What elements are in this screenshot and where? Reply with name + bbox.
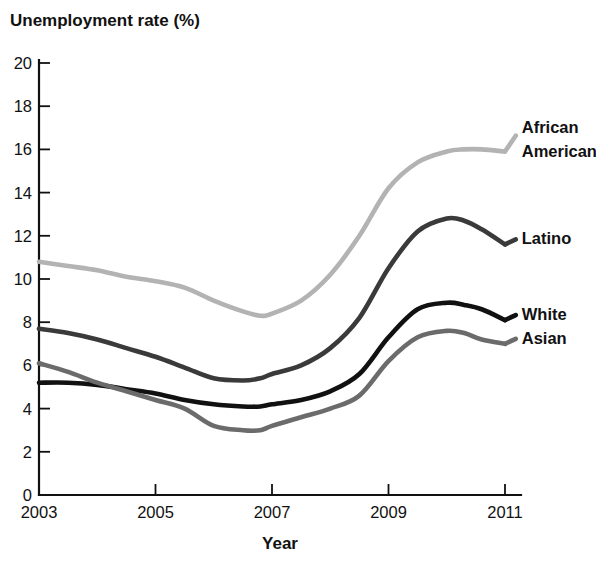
unemployment-rate-line-chart: Unemployment rate (%) 02468101214161820 … xyxy=(0,0,596,572)
series-label-latino: Latino xyxy=(522,229,572,247)
series-line-latino xyxy=(39,218,505,381)
chart-series-lines xyxy=(39,136,516,431)
series-leader-white xyxy=(505,315,516,320)
chart-axes xyxy=(39,60,521,495)
y-axis-title: Unemployment rate (%) xyxy=(10,11,200,30)
series-label-african-american-line2: American xyxy=(522,142,596,160)
y-tick-label: 4 xyxy=(23,400,32,418)
x-axis-title: Year xyxy=(262,534,298,553)
y-tick-label: 18 xyxy=(14,97,32,115)
series-line-asian xyxy=(39,331,505,431)
x-tick-label: 2007 xyxy=(254,503,291,521)
y-axis-ticks: 02468101214161820 xyxy=(14,54,50,504)
series-label-white: White xyxy=(522,305,567,323)
x-axis-ticks: 20032005200720092011 xyxy=(21,484,523,521)
series-leader-latino xyxy=(505,239,516,244)
x-tick-label: 2011 xyxy=(487,503,522,521)
y-tick-label: 2 xyxy=(23,443,32,461)
y-tick-label: 0 xyxy=(23,486,32,504)
series-line-white xyxy=(39,303,505,407)
series-leader-asian xyxy=(505,339,516,344)
y-tick-label: 10 xyxy=(14,270,32,288)
chart-title-text: Unemployment rate (%) xyxy=(10,11,200,30)
chart-canvas: Unemployment rate (%) 02468101214161820 … xyxy=(0,0,596,572)
y-tick-label: 20 xyxy=(14,54,32,72)
x-tick-label: 2003 xyxy=(21,503,58,521)
series-label-african-american-line1: African xyxy=(522,118,579,136)
y-tick-label: 6 xyxy=(23,356,32,374)
y-tick-label: 8 xyxy=(23,313,32,331)
series-line-african-american xyxy=(39,149,505,316)
x-axis-title-text: Year xyxy=(262,534,298,553)
series-leader-african-american xyxy=(505,136,516,152)
y-tick-label: 12 xyxy=(14,227,32,245)
series-label-asian: Asian xyxy=(522,329,567,347)
y-tick-label: 16 xyxy=(14,140,32,158)
y-tick-label: 14 xyxy=(14,184,32,202)
x-tick-label: 2009 xyxy=(370,503,407,521)
chart-series-labels: AfricanAmericanLatinoWhiteAsian xyxy=(522,118,596,347)
x-tick-label: 2005 xyxy=(137,503,174,521)
